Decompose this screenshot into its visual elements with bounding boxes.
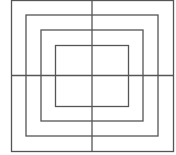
concentric-rectangles-diagram bbox=[0, 0, 176, 155]
